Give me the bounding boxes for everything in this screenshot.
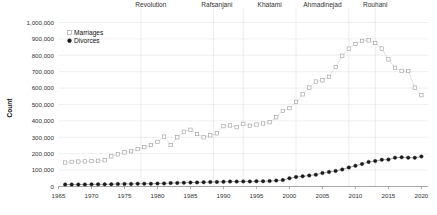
y-tick-label: 200,000: [32, 150, 55, 157]
era-label: Rouhani: [363, 1, 388, 8]
y-tick-label: 800,000: [32, 52, 55, 59]
data-point-divorces: [96, 183, 100, 187]
data-point-marriages: [374, 41, 377, 44]
era-divider-lines: [141, 9, 375, 187]
data-point-marriages: [143, 145, 146, 148]
data-point-divorces: [268, 179, 272, 183]
data-point-divorces: [63, 183, 67, 187]
y-tick-label: 500,000: [32, 101, 55, 108]
data-point-marriages: [341, 54, 344, 57]
data-point-divorces: [347, 166, 351, 170]
x-tick-label: 1975: [118, 192, 132, 199]
data-point-marriages: [334, 65, 337, 68]
data-point-marriages: [347, 47, 350, 50]
data-point-divorces: [248, 180, 252, 184]
data-point-marriages: [261, 122, 264, 125]
era-label: Rafsanjani: [201, 1, 233, 9]
data-point-divorces: [387, 158, 391, 162]
data-point-marriages: [149, 143, 152, 146]
data-point-divorces: [261, 180, 265, 184]
data-point-marriages: [235, 125, 238, 128]
data-point-marriages: [413, 86, 416, 89]
data-point-marriages: [255, 123, 258, 126]
x-tick-label: 1965: [52, 192, 66, 199]
data-point-marriages: [242, 122, 245, 125]
y-tick-label: 0: [51, 183, 55, 190]
data-point-divorces: [136, 182, 140, 186]
data-point-divorces: [340, 168, 344, 172]
y-tick-label: 600,000: [32, 84, 55, 91]
data-point-marriages: [96, 159, 99, 162]
data-point-marriages: [77, 160, 80, 163]
data-point-divorces: [360, 162, 364, 166]
data-point-divorces: [367, 160, 371, 164]
data-point-divorces: [189, 181, 193, 185]
data-point-marriages: [63, 161, 66, 164]
data-point-divorces: [83, 183, 87, 187]
data-point-marriages: [156, 140, 159, 143]
legend-marker-marriages: [68, 31, 72, 35]
data-point-marriages: [420, 93, 423, 96]
data-point-marriages: [123, 151, 126, 154]
data-point-divorces: [373, 159, 377, 163]
data-point-divorces: [143, 182, 147, 186]
data-point-marriages: [136, 147, 139, 150]
data-point-divorces: [182, 181, 186, 185]
data-point-divorces: [307, 174, 311, 178]
data-point-divorces: [77, 183, 81, 187]
data-point-divorces: [255, 180, 259, 184]
data-point-marriages: [327, 75, 330, 78]
data-point-marriages: [314, 80, 317, 83]
data-point-divorces: [380, 158, 384, 162]
data-point-marriages: [116, 153, 119, 156]
y-tick-label: 700,000: [32, 68, 55, 75]
legend-label: Marriages: [74, 29, 104, 37]
data-point-marriages: [268, 121, 271, 124]
data-point-divorces: [281, 178, 285, 182]
axis-lines: [59, 187, 429, 190]
data-point-marriages: [215, 132, 218, 135]
x-tick-label: 2010: [349, 192, 363, 199]
x-tick-label: 2005: [316, 192, 330, 199]
data-point-divorces: [314, 173, 318, 177]
data-point-marriages: [222, 124, 225, 127]
data-point-marriages: [182, 130, 185, 133]
data-point-marriages: [169, 143, 172, 146]
data-point-divorces: [235, 180, 239, 184]
data-point-marriages: [387, 58, 390, 61]
data-point-divorces: [228, 180, 232, 184]
data-point-marriages: [400, 69, 403, 72]
data-point-divorces: [294, 175, 298, 179]
data-point-divorces: [274, 179, 278, 183]
data-point-divorces: [149, 182, 153, 186]
data-point-divorces: [301, 175, 305, 179]
y-tick-label: 100,000: [32, 166, 55, 173]
x-tick-label: 2000: [283, 192, 297, 199]
data-point-marriages: [407, 69, 410, 72]
data-point-divorces: [334, 169, 338, 173]
data-point-marriages: [281, 109, 284, 112]
data-point-divorces: [110, 182, 114, 186]
data-point-divorces: [123, 182, 127, 186]
y-tick-label: 400,000: [32, 117, 55, 124]
data-point-marriages: [129, 150, 132, 153]
x-tick-label: 2015: [382, 192, 396, 199]
data-point-marriages: [83, 160, 86, 163]
data-point-divorces: [215, 180, 219, 184]
chart-legend: MarriagesDivorces: [68, 29, 104, 44]
data-point-divorces: [420, 155, 424, 159]
era-label: Revolution: [135, 1, 166, 8]
data-point-divorces: [400, 156, 404, 160]
x-tick-label: 1970: [85, 192, 99, 199]
marriages-divorces-chart: RevolutionRafsanjaniKhatamiAhmadinejadRo…: [0, 0, 437, 215]
data-point-divorces: [169, 181, 173, 185]
data-point-divorces: [202, 180, 206, 184]
data-point-marriages: [294, 100, 297, 103]
data-point-marriages: [380, 47, 383, 50]
y-tick-label: 1,000,000: [26, 19, 54, 26]
data-point-marriages: [70, 160, 73, 163]
data-point-marriages: [248, 124, 251, 127]
data-point-marriages: [195, 132, 198, 135]
era-label: Ahmadinejad: [303, 1, 342, 9]
x-tick-label: 1990: [217, 192, 231, 199]
